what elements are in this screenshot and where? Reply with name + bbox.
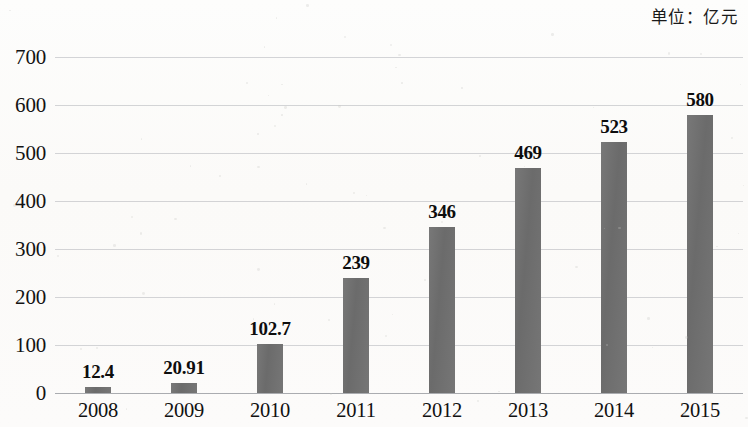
bar-value-label: 580 <box>655 89 745 111</box>
bar <box>85 387 111 393</box>
bar-value-label: 12.4 <box>53 361 143 383</box>
paper-speckle <box>551 33 554 36</box>
x-axis-tick-label: 2010 <box>225 399 315 422</box>
paper-speckle <box>344 36 346 38</box>
bar <box>171 383 197 393</box>
paper-speckle <box>668 52 670 54</box>
paper-speckle <box>276 17 277 18</box>
bar-value-label: 346 <box>397 201 487 223</box>
x-axis-tick-label: 2009 <box>139 399 229 422</box>
paper-speckle <box>264 46 266 48</box>
bar-chart: 单位：亿元 010020030040050060070012.4200820.9… <box>0 0 748 427</box>
bar-value-label: 20.91 <box>139 357 229 379</box>
bar-value-label: 239 <box>311 252 401 274</box>
x-axis-tick-label: 2011 <box>311 399 401 422</box>
y-axis-tick-label: 600 <box>0 93 46 118</box>
y-axis-tick-label: 400 <box>0 189 46 214</box>
gridline <box>55 153 743 154</box>
x-axis-tick-label: 2013 <box>483 399 573 422</box>
bar <box>515 168 541 393</box>
gridline <box>55 297 743 298</box>
paper-speckle <box>745 417 747 419</box>
y-axis-tick-label: 0 <box>0 381 46 406</box>
y-axis-tick-label: 500 <box>0 141 46 166</box>
x-axis-tick-label: 2014 <box>569 399 659 422</box>
gridline <box>55 57 743 58</box>
paper-speckle <box>9 10 10 11</box>
paper-speckle <box>306 4 308 6</box>
paper-speckle <box>390 44 392 46</box>
x-axis-tick-label: 2012 <box>397 399 487 422</box>
unit-caption: 单位：亿元 <box>651 4 739 28</box>
bar-value-label: 523 <box>569 116 659 138</box>
y-axis-tick-label: 300 <box>0 237 46 262</box>
y-axis-tick-label: 700 <box>0 45 46 70</box>
y-axis-tick-label: 100 <box>0 333 46 358</box>
gridline <box>55 249 743 250</box>
paper-speckle <box>700 53 702 55</box>
bar <box>601 142 627 393</box>
gridline <box>55 105 743 106</box>
y-axis-tick-label: 200 <box>0 285 46 310</box>
bar <box>343 278 369 393</box>
x-axis-tick-label: 2008 <box>53 399 143 422</box>
bar-value-label: 102.7 <box>225 318 315 340</box>
bar <box>257 344 283 393</box>
x-axis-tick-label: 2015 <box>655 399 745 422</box>
bar <box>687 115 713 393</box>
axis-baseline <box>55 393 743 394</box>
paper-speckle <box>743 185 744 186</box>
plot-area <box>55 57 743 393</box>
gridline <box>55 345 743 346</box>
bar-value-label: 469 <box>483 142 573 164</box>
bar <box>429 227 455 393</box>
